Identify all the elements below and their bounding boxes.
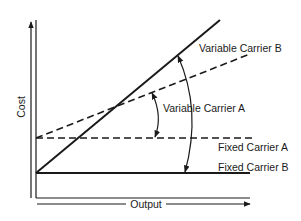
variable-carrier-b-line: [36, 20, 220, 173]
fixed-carrier-a-label: Fixed Carrier A: [218, 141, 288, 153]
angle-arc-b: [178, 56, 192, 172]
y-axis: [31, 20, 36, 198]
y-axis-label: Cost: [15, 96, 27, 118]
variable-carrier-a-label: Variable Carrier A: [163, 102, 245, 114]
variable-carrier-b-label: Variable Carrier B: [199, 42, 282, 54]
variable-carrier-a-line: [36, 54, 250, 138]
fixed-carrier-b-label: Fixed Carrier B: [218, 161, 289, 173]
angle-arc-a: [152, 93, 158, 137]
x-axis-label: Output: [130, 198, 162, 210]
cost-output-diagram: Cost Output Variable Carrier B Variable …: [0, 0, 301, 221]
